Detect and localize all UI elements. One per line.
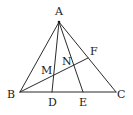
point-label-A: A [54,5,64,18]
point-label-E: E [79,96,87,109]
point-label-B: B [7,88,15,101]
vertex-A-dot [58,21,61,24]
point-label-C: C [117,88,125,101]
point-label-D: D [48,96,57,109]
point-label-N: N [62,55,72,68]
triangle-diagram: ABCDEFMN [0,0,133,115]
point-label-F: F [90,45,98,58]
segment-BF [20,58,88,92]
point-label-M: M [41,64,52,77]
labels-group: ABCDEFMN [7,5,125,109]
